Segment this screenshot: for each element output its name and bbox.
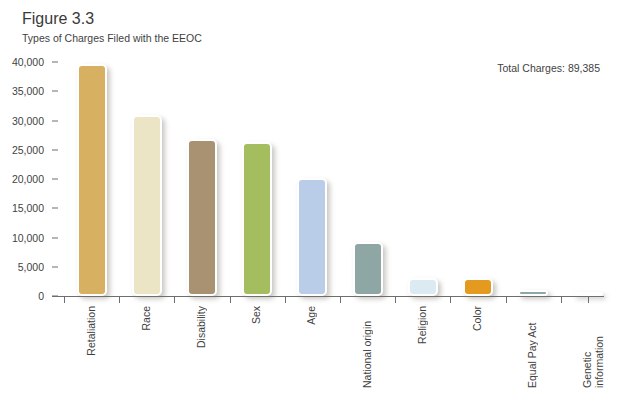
x-axis-tick-mark [506,296,507,303]
x-axis-label-equal-pay-act: Equal Pay Act [526,306,552,388]
x-axis-tick-mark [340,296,341,303]
x-axis-tick-mark [174,296,175,303]
x-axis-label-race: Race [140,306,154,331]
x-axis-tick-mark [561,296,562,303]
x-axis-label-genetic-information: Genetic information [581,306,607,388]
x-axis-tick-mark [588,296,589,303]
x-axis-label-age: Age [305,306,319,325]
x-axis-label-religion: Religion [416,306,430,344]
x-axis-label-national-origin: National origin [361,306,387,388]
x-axis-label-color: Color [471,306,485,331]
chart-plot-area: 40,00035,00030,00025,00020,00015,00010,0… [0,0,632,395]
x-axis-tick-mark [64,296,65,303]
x-axis-tick-mark [450,296,451,303]
x-axis-label-disability: Disability [195,306,209,348]
x-axis-labels: RetaliationRaceDisabilitySexAgeNational … [0,0,632,395]
x-axis-tick-mark [285,296,286,303]
x-axis-tick-mark [230,296,231,303]
x-axis-label-retaliation: Retaliation [85,306,99,356]
x-axis-label-sex: Sex [250,306,264,324]
x-axis-tick-mark [395,296,396,303]
x-axis-tick-mark [119,296,120,303]
